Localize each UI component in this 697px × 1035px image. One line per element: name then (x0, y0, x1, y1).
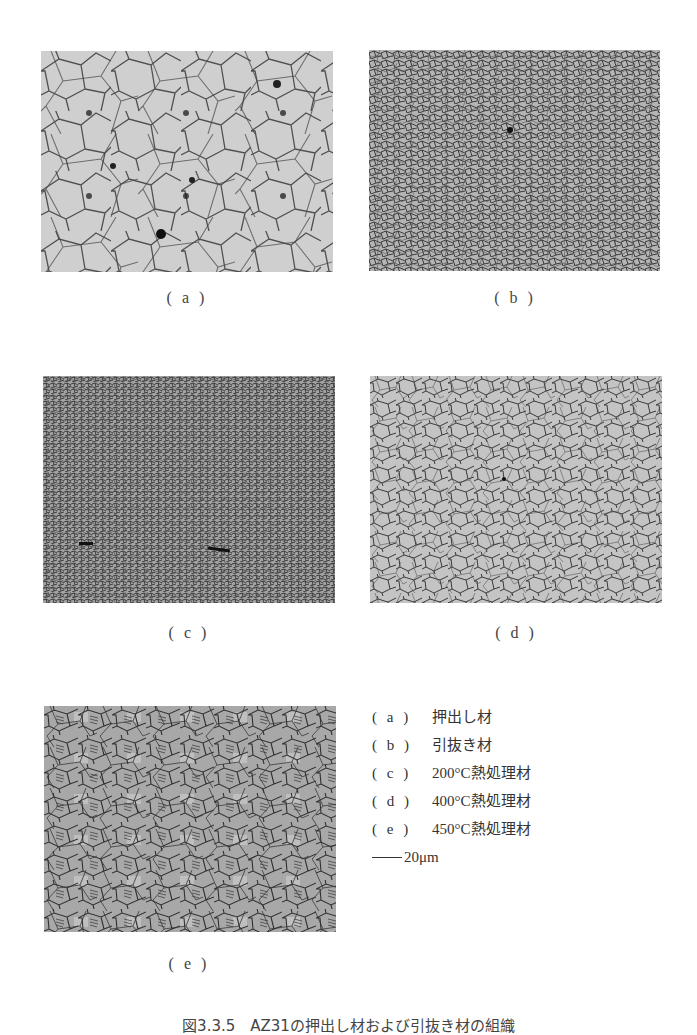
grain-structure-twinned (44, 706, 336, 932)
legend-key: ( a ) (372, 705, 432, 733)
micrograph-a-extruded (41, 51, 333, 272)
grain-structure-equiaxed (370, 376, 662, 603)
legend-row-c: ( c ) 200°C熱処理材 (372, 761, 531, 789)
micrograph-e-450c (44, 706, 336, 932)
legend-key: ( d ) (372, 789, 432, 817)
grain-structure-very-fine (43, 376, 335, 603)
legend-row-e: ( e ) 450°C熱処理材 (372, 817, 531, 845)
panel-label-a: ( a ) (147, 289, 227, 307)
scale-bar: 20μm (372, 845, 531, 869)
legend-row-b: ( b ) 引抜き材 (372, 733, 531, 761)
panel-label-e: ( e ) (149, 955, 229, 973)
scale-bar-line (372, 857, 402, 858)
legend-text: 400°C熱処理材 (432, 789, 531, 817)
legend-text: 450°C熱処理材 (432, 817, 531, 845)
legend-key: ( b ) (372, 733, 432, 761)
micrograph-d-400c (370, 376, 662, 603)
grain-structure-coarse (41, 51, 333, 272)
legend-text: 200°C熱処理材 (432, 761, 531, 789)
scale-bar-value: 20μm (404, 849, 439, 866)
grain-structure-fine-deformed (369, 50, 660, 271)
figure-legend: ( a ) 押出し材 ( b ) 引抜き材 ( c ) 200°C熱処理材 ( … (372, 705, 531, 869)
legend-row-d: ( d ) 400°C熱処理材 (372, 789, 531, 817)
legend-text: 引抜き材 (432, 733, 492, 761)
micrograph-c-200c (43, 376, 335, 603)
legend-key: ( e ) (372, 817, 432, 845)
panel-label-d: ( d ) (476, 624, 556, 642)
legend-row-a: ( a ) 押出し材 (372, 705, 531, 733)
panel-label-c: ( c ) (149, 624, 229, 642)
figure-caption: 図3.3.5 AZ31の押出し材および引抜き材の組織 (0, 1014, 697, 1035)
legend-key: ( c ) (372, 761, 432, 789)
panel-label-b: ( b ) (475, 289, 555, 307)
micrograph-b-drawn (369, 50, 660, 271)
legend-text: 押出し材 (432, 705, 492, 733)
